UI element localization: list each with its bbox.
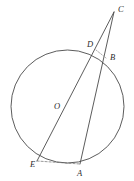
point-label-o: O xyxy=(54,102,60,111)
point-label-b: B xyxy=(110,53,115,62)
segment-c-to-a xyxy=(80,12,114,164)
circle-outline xyxy=(11,50,124,163)
point-label-d: D xyxy=(87,40,93,49)
point-label-e: E xyxy=(30,160,35,169)
geometry-canvas xyxy=(0,0,134,181)
geometry-figure: C D B O E A xyxy=(0,0,134,181)
segment-c-to-e xyxy=(37,12,114,161)
point-label-c: C xyxy=(118,5,124,14)
point-label-a: A xyxy=(77,169,82,178)
